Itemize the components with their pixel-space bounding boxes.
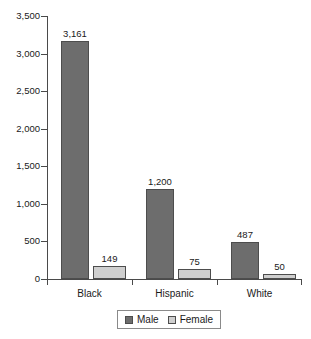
x-axis-tick	[132, 279, 133, 285]
y-axis-tick-label: 1,000	[0, 199, 40, 209]
legend-item-female: Female	[168, 314, 213, 325]
x-axis-tick	[301, 279, 302, 285]
x-axis-line	[47, 279, 302, 280]
bar-female-hispanic	[178, 269, 211, 279]
x-axis-category-label-hispanic: Hispanic	[132, 288, 217, 300]
bar-chart: 05001,0001,5002,0002,5003,0003,500 3,161…	[0, 0, 311, 339]
bars-layer: 3,1611491,2007548750	[48, 16, 302, 279]
bar-value-female-black: 149	[85, 253, 134, 264]
x-axis-tick	[47, 279, 48, 285]
bar-value-male-black: 3,161	[53, 28, 97, 39]
bar-value-male-hispanic: 1,200	[138, 176, 182, 187]
legend-item-male: Male	[125, 314, 159, 325]
bar-value-female-hispanic: 75	[170, 256, 219, 267]
x-axis-tick	[217, 279, 218, 285]
y-axis-tick-label: 2,000	[0, 124, 40, 134]
bar-male-black	[61, 41, 89, 279]
y-axis-tick-label: 3,500	[0, 11, 40, 21]
y-axis-tick-label: 1,500	[0, 161, 40, 171]
y-axis-tick-label: 0	[0, 274, 40, 284]
bar-value-male-white: 487	[223, 229, 267, 240]
y-axis-tick-label: 500	[0, 236, 40, 246]
bar-value-female-white: 50	[255, 261, 304, 272]
male-swatch-icon	[125, 316, 133, 324]
legend-label-female: Female	[180, 314, 213, 325]
chart-legend: Male Female	[117, 310, 221, 329]
y-axis-tick-label: 3,000	[0, 49, 40, 59]
y-axis-tick-label: 2,500	[0, 86, 40, 96]
x-axis-category-label-black: Black	[47, 288, 132, 300]
bar-female-white	[263, 274, 296, 279]
female-swatch-icon	[168, 316, 176, 324]
legend-label-male: Male	[137, 314, 159, 325]
x-axis-category-label-white: White	[217, 288, 302, 300]
bar-female-black	[93, 266, 126, 279]
